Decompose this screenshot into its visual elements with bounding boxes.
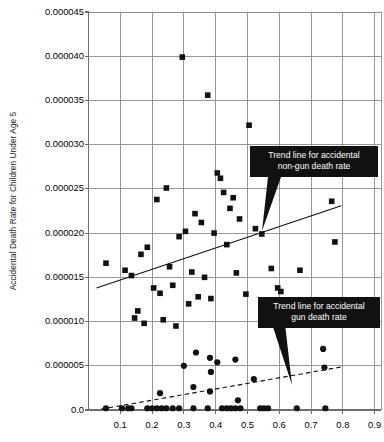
data-point-circle bbox=[190, 405, 196, 411]
data-point-square bbox=[211, 230, 217, 236]
data-point-square bbox=[138, 252, 144, 258]
data-point-square bbox=[145, 244, 151, 250]
data-point-square bbox=[151, 285, 157, 291]
data-point-square bbox=[218, 175, 224, 181]
data-point-circle bbox=[208, 369, 214, 375]
data-point-square bbox=[173, 323, 179, 329]
data-point-square bbox=[132, 315, 138, 321]
data-point-square bbox=[202, 275, 208, 281]
data-point-square bbox=[176, 234, 182, 240]
data-point-square bbox=[183, 229, 189, 235]
data-point-square bbox=[189, 269, 195, 275]
data-point-square bbox=[329, 198, 335, 204]
data-point-square bbox=[221, 190, 227, 196]
data-point-circle bbox=[176, 405, 182, 411]
data-point-circle bbox=[214, 359, 220, 365]
data-point-square bbox=[122, 267, 128, 273]
data-point-square bbox=[246, 122, 252, 128]
data-point-square bbox=[129, 273, 135, 279]
data-point-square bbox=[297, 267, 303, 273]
data-point-circle bbox=[190, 384, 196, 390]
data-point-square bbox=[103, 260, 109, 266]
annotation-gun-line2: gun death rate bbox=[265, 312, 373, 323]
data-point-square bbox=[186, 301, 192, 307]
data-point-square bbox=[164, 185, 170, 191]
annotation-gun-trend: Trend line for accidental gun death rate bbox=[258, 297, 380, 328]
data-point-circle bbox=[320, 346, 326, 352]
trend-line-gun bbox=[101, 367, 343, 409]
data-point-circle bbox=[235, 397, 241, 403]
data-point-circle bbox=[207, 388, 213, 394]
axis-lines bbox=[85, 12, 382, 414]
data-point-circle bbox=[232, 356, 238, 362]
data-point-square bbox=[253, 226, 259, 232]
annotation-gun-line1: Trend line for accidental bbox=[265, 301, 373, 312]
data-point-circle bbox=[251, 376, 257, 382]
scatter-chart: Accidental Death Rate for Children Under… bbox=[0, 0, 384, 442]
data-point-circle bbox=[170, 405, 176, 411]
data-point-square bbox=[135, 308, 141, 314]
data-point-circle bbox=[207, 355, 213, 361]
data-point-square bbox=[234, 270, 240, 276]
data-point-circle bbox=[119, 405, 125, 411]
data-point-square bbox=[332, 239, 338, 245]
data-point-square bbox=[179, 54, 185, 60]
data-point-square bbox=[192, 211, 198, 217]
data-point-circle bbox=[163, 405, 169, 411]
callout-tails bbox=[262, 177, 292, 385]
data-point-square bbox=[199, 220, 205, 226]
data-point-square bbox=[224, 242, 230, 248]
data-point-square bbox=[269, 266, 275, 272]
gridlines bbox=[89, 12, 382, 410]
data-point-square bbox=[154, 197, 160, 203]
annotation-non-gun-line1: Trend line for accidental bbox=[257, 150, 371, 161]
data-point-circle bbox=[181, 363, 187, 369]
data-point-circle bbox=[103, 405, 109, 411]
data-point-circle bbox=[237, 405, 243, 411]
data-point-square bbox=[227, 206, 233, 212]
data-point-square bbox=[278, 289, 284, 295]
data-point-square bbox=[208, 296, 214, 302]
data-point-square bbox=[167, 264, 173, 270]
data-point-circle bbox=[294, 405, 300, 411]
data-point-circle bbox=[265, 405, 271, 411]
annotation-non-gun-tail bbox=[262, 177, 281, 231]
data-point-square bbox=[141, 321, 147, 327]
data-point-square bbox=[195, 294, 201, 300]
data-point-circle bbox=[321, 364, 327, 370]
data-point-square bbox=[157, 290, 163, 296]
annotation-non-gun-line2: non-gun death rate bbox=[257, 161, 371, 172]
data-point-square bbox=[205, 92, 211, 98]
data-point-square bbox=[170, 282, 176, 288]
annotation-gun-tail bbox=[272, 324, 292, 385]
data-point-circle bbox=[205, 405, 211, 411]
data-point-square bbox=[243, 291, 249, 297]
data-point-square bbox=[237, 216, 243, 222]
data-point-square bbox=[214, 170, 220, 176]
data-point-square bbox=[230, 195, 236, 201]
data-point-square bbox=[160, 317, 166, 323]
data-point-circle bbox=[157, 390, 163, 396]
data-point-square bbox=[259, 231, 265, 237]
data-point-circle bbox=[128, 405, 134, 411]
plot-area bbox=[0, 0, 384, 442]
annotation-non-gun-trend: Trend line for accidental non-gun death … bbox=[250, 146, 378, 177]
data-point-circle bbox=[193, 349, 199, 355]
data-point-circle bbox=[322, 405, 328, 411]
